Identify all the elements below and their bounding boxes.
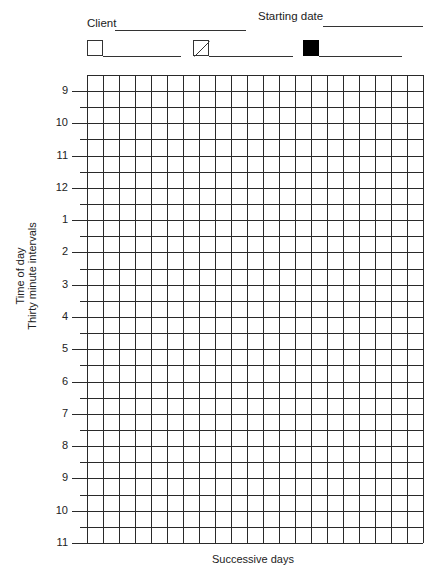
grid-row-line bbox=[87, 75, 423, 76]
starting-date-label: Starting date bbox=[258, 11, 323, 23]
half-hour-tick bbox=[80, 365, 87, 366]
hour-label: 10 bbox=[44, 505, 68, 516]
half-hour-tick bbox=[80, 398, 87, 399]
hour-tick bbox=[72, 156, 87, 157]
grid-column-line bbox=[231, 75, 232, 543]
hour-tick bbox=[72, 478, 87, 479]
hour-label: 6 bbox=[44, 376, 68, 387]
half-hour-tick bbox=[80, 204, 87, 205]
half-hour-tick bbox=[80, 333, 87, 334]
grid-column-line bbox=[199, 75, 200, 543]
grid-row-line bbox=[87, 269, 423, 270]
hour-tick bbox=[72, 252, 87, 253]
grid-row-line bbox=[87, 317, 423, 318]
grid-row-line bbox=[87, 382, 423, 383]
grid-row-line bbox=[87, 91, 423, 92]
starting-date-input-line[interactable] bbox=[323, 26, 423, 27]
client-label: Client bbox=[87, 18, 116, 30]
grid-row-line bbox=[87, 398, 423, 399]
hour-tick bbox=[72, 446, 87, 447]
hour-label: 8 bbox=[44, 440, 68, 451]
half-hour-tick bbox=[80, 269, 87, 270]
hour-label: 11 bbox=[44, 150, 68, 161]
grid-column-line bbox=[279, 75, 280, 543]
hour-label: 5 bbox=[44, 343, 68, 354]
grid-row-line bbox=[87, 188, 423, 189]
hour-label: 7 bbox=[44, 408, 68, 419]
grid-column-line bbox=[295, 75, 296, 543]
grid-column-line bbox=[423, 75, 424, 543]
grid-row-line bbox=[87, 527, 423, 528]
grid-row-line bbox=[87, 156, 423, 157]
grid-column-line bbox=[119, 75, 120, 543]
legend-diagonal-label-line[interactable] bbox=[209, 56, 293, 57]
grid-row-line bbox=[87, 446, 423, 447]
grid-row-line bbox=[87, 139, 423, 140]
grid-row-line bbox=[87, 495, 423, 496]
grid-row-line bbox=[87, 333, 423, 334]
half-hour-tick bbox=[80, 462, 87, 463]
grid-row-line bbox=[87, 365, 423, 366]
filled-square-icon bbox=[303, 40, 319, 56]
diagonal-square-icon bbox=[193, 40, 209, 56]
y-axis-title-line1: Time of day bbox=[14, 222, 26, 330]
hour-tick bbox=[72, 188, 87, 189]
grid-column-line bbox=[375, 75, 376, 543]
client-input-line[interactable] bbox=[115, 30, 246, 31]
hour-tick bbox=[72, 511, 87, 512]
hour-label: 9 bbox=[44, 472, 68, 483]
hour-label: 12 bbox=[44, 182, 68, 193]
hour-tick bbox=[72, 414, 87, 415]
hour-label: 11 bbox=[44, 537, 68, 548]
grid-row-line bbox=[87, 462, 423, 463]
y-axis-title-line2: Thirty minute intervals bbox=[26, 222, 38, 330]
grid-column-line bbox=[87, 75, 88, 543]
grid-row-line bbox=[87, 252, 423, 253]
half-hour-tick bbox=[80, 139, 87, 140]
grid-row-line bbox=[87, 511, 423, 512]
half-hour-tick bbox=[80, 172, 87, 173]
empty-square-icon bbox=[87, 40, 103, 56]
legend-filled-label-line[interactable] bbox=[319, 56, 402, 57]
grid-row-line bbox=[87, 543, 423, 544]
hour-label: 3 bbox=[44, 279, 68, 290]
grid-column-line bbox=[183, 75, 184, 543]
grid-column-line bbox=[311, 75, 312, 543]
grid-row-line bbox=[87, 123, 423, 124]
grid-row-line bbox=[87, 301, 423, 302]
grid-column-line bbox=[407, 75, 408, 543]
grid-column-line bbox=[391, 75, 392, 543]
grid-column-line bbox=[343, 75, 344, 543]
grid-column-line bbox=[327, 75, 328, 543]
grid-row-line bbox=[87, 220, 423, 221]
hour-tick bbox=[72, 543, 87, 544]
grid-row-line bbox=[87, 478, 423, 479]
hour-label: 10 bbox=[44, 117, 68, 128]
grid-column-line bbox=[359, 75, 360, 543]
grid-row-line bbox=[87, 285, 423, 286]
half-hour-tick bbox=[80, 495, 87, 496]
hour-tick bbox=[72, 91, 87, 92]
grid-row-line bbox=[87, 430, 423, 431]
hour-label: 9 bbox=[44, 85, 68, 96]
recording-grid[interactable] bbox=[87, 75, 423, 543]
hour-tick bbox=[72, 382, 87, 383]
grid-column-line bbox=[263, 75, 264, 543]
hour-tick bbox=[72, 123, 87, 124]
half-hour-tick bbox=[80, 236, 87, 237]
grid-column-line bbox=[135, 75, 136, 543]
grid-column-line bbox=[103, 75, 104, 543]
legend-empty-label-line[interactable] bbox=[103, 56, 181, 57]
hour-tick bbox=[72, 285, 87, 286]
grid-column-line bbox=[215, 75, 216, 543]
grid-column-line bbox=[247, 75, 248, 543]
grid-row-line bbox=[87, 107, 423, 108]
x-axis-title: Successive days bbox=[212, 554, 294, 565]
hour-label: 4 bbox=[44, 311, 68, 322]
hour-label: 2 bbox=[44, 246, 68, 257]
grid-row-line bbox=[87, 349, 423, 350]
half-hour-tick bbox=[80, 301, 87, 302]
hour-tick bbox=[72, 349, 87, 350]
hour-tick bbox=[72, 317, 87, 318]
grid-row-line bbox=[87, 172, 423, 173]
